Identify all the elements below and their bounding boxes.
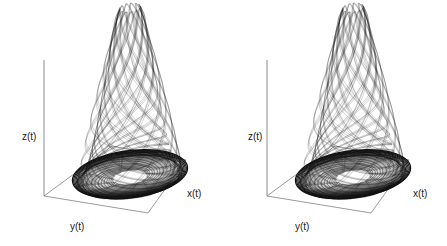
trajectory-path-group: [72, 3, 187, 199]
attractor-svg-right: [223, 0, 446, 246]
axis-label-z: z(t): [248, 132, 262, 142]
attractor-plot-right: z(t) y(t) x(t): [223, 0, 446, 246]
axis-label-x: x(t): [187, 189, 201, 199]
axis-label-x: x(t): [413, 189, 427, 199]
attractor-plot-left: z(t) y(t) x(t): [0, 0, 223, 246]
figure-container: z(t) y(t) x(t) z(t) y(t) x(t): [0, 0, 447, 246]
axis-label-y: y(t): [295, 222, 309, 232]
axis-label-z: z(t): [22, 132, 36, 142]
axis-label-y: y(t): [70, 222, 84, 232]
attractor-svg-left: [0, 0, 223, 246]
trajectory-path-group: [295, 3, 410, 199]
